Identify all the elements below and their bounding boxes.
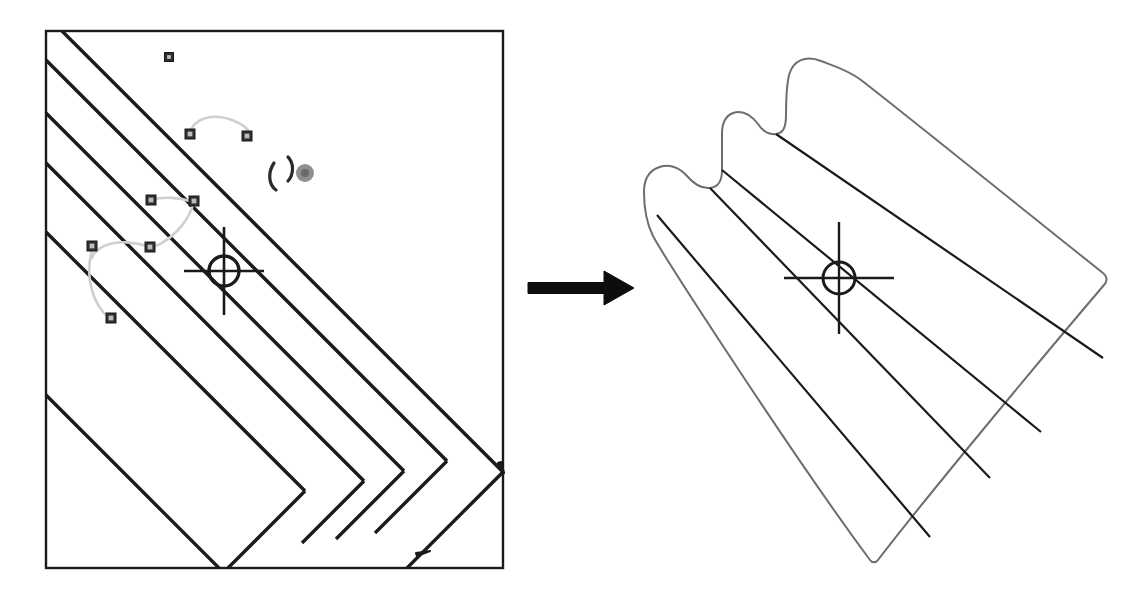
figure-root <box>0 0 1142 601</box>
blob-inner-dot <box>301 169 309 177</box>
seed-marker-4-inner <box>149 198 154 203</box>
seed-marker-3 <box>242 131 252 141</box>
seed-marker-1-inner <box>167 55 171 59</box>
seed-marker-3-inner <box>245 134 250 139</box>
seed-marker-4 <box>146 195 156 205</box>
seed-marker-5 <box>189 196 199 206</box>
figure-canvas <box>0 0 1142 601</box>
seed-marker-6-inner <box>90 244 95 249</box>
seed-marker-2-inner <box>188 132 193 137</box>
source-image-panel <box>46 29 504 577</box>
seed-marker-7-inner <box>148 245 153 250</box>
seed-marker-7 <box>145 242 155 252</box>
seed-marker-2 <box>185 129 195 139</box>
seed-marker-5-inner <box>192 199 197 204</box>
seed-marker-6 <box>87 241 97 251</box>
seed-marker-8 <box>106 313 116 323</box>
seed-marker-1 <box>165 53 174 62</box>
blob-marker <box>296 164 314 182</box>
seed-marker-8-inner <box>109 316 114 321</box>
